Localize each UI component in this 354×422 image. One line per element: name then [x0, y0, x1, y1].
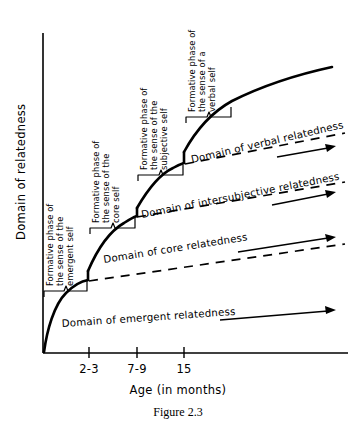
arrow-head-emergent: [325, 306, 336, 314]
phase-core-line3: core self: [111, 186, 121, 223]
arrow-head-intersubjective: [325, 190, 336, 198]
phase-label-subjective-self: Formative phase of the sense of the subj…: [139, 87, 169, 170]
arrow-line-verbal: [277, 148, 328, 157]
phase-label-verbal-self: Formative phase of the sense of a verbal…: [187, 29, 217, 112]
arrow-line-emergent: [220, 311, 328, 320]
phase-emergent-line2: the sense of the: [55, 217, 65, 287]
phase-subjective-line2: the sense of the: [149, 101, 159, 171]
x-tick-label-2-3: 2-3: [79, 362, 98, 376]
phase-subjective-line3: subjective self: [159, 107, 169, 170]
arrow-line-core: [238, 238, 328, 252]
phase-label-core-self: Formative phase of the sense of the core…: [91, 140, 121, 223]
phase-verbal-line1: Formative phase of: [187, 29, 197, 112]
arrow-head-core: [325, 234, 336, 242]
phase-emergent-line3: emergent self: [65, 225, 75, 286]
phase-verbal-line2: the sense of a: [197, 51, 207, 112]
domain-label-emergent: Domain of emergent relatedness: [61, 306, 235, 329]
domain-label-verbal: Domain of verbal relatedness: [190, 119, 345, 165]
phase-core-line1: Formative phase of: [91, 140, 101, 223]
phase-emergent-line1: Formative phase of: [45, 203, 55, 286]
domain-label-core: Domain of core relatedness: [103, 231, 249, 265]
figure-caption: Figure 2.3: [153, 405, 202, 419]
phase-label-emergent-self: Formative phase of the sense of the emer…: [45, 203, 75, 286]
domain-label-intersubjective: Domain of intersubjective relatedness: [140, 171, 340, 220]
y-axis-title: Domain of relatedness: [14, 104, 28, 240]
arrow-line-intersubjective: [272, 194, 328, 205]
phase-subjective-line1: Formative phase of: [139, 87, 149, 170]
x-tick-label-7-9: 7-9: [127, 362, 146, 376]
x-axis-title: Age (in months): [130, 383, 227, 397]
arrow-head-verbal: [325, 144, 336, 152]
figure-graphic: Domain of relatedness 2-3 7-9 15 Age (in…: [0, 0, 354, 422]
x-tick-label-15: 15: [176, 362, 191, 376]
phase-verbal-line3: verbal self: [207, 66, 217, 112]
phase-core-line2: the sense of the: [101, 154, 111, 224]
figure-container: Domain of relatedness 2-3 7-9 15 Age (in…: [0, 0, 354, 422]
